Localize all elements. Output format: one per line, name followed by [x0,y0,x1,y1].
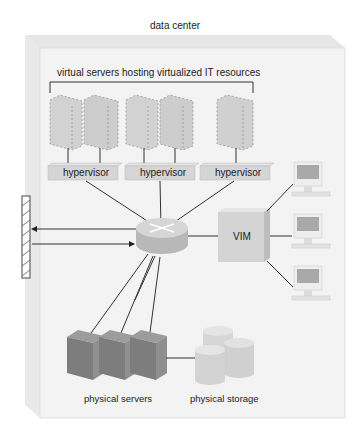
virtual-server-icon [84,95,118,150]
vim-label: VIM [233,231,251,242]
hypervisor-label: hypervisor [63,167,109,178]
storage-cylinder-icon [195,345,225,385]
physical-servers [67,330,167,380]
physical-server-icon [130,330,167,380]
virtual-server-icon [217,95,253,150]
virtual-servers-label: virtual servers hosting virtualized IT r… [57,67,260,78]
physical-servers-label: physical servers [84,393,152,404]
hypervisor-label: hypervisor [140,167,186,178]
virtual-servers [50,95,253,150]
virtual-server-icon [126,95,158,150]
physical-server-icon [67,330,104,380]
virtual-server-icon [160,95,193,150]
diagram-canvas [0,0,362,440]
hypervisor-label: hypervisor [215,167,261,178]
virtual-server-icon [50,95,82,150]
physical-storage-label: physical storage [190,393,259,404]
storage-cylinder-icon [224,338,254,378]
firewall-icon [22,196,30,278]
router-icon [136,218,188,254]
